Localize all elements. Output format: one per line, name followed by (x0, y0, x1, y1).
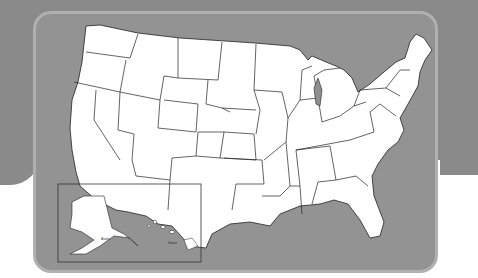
label-alaska: Alaska (101, 237, 110, 241)
contiguous-us (70, 25, 432, 248)
us-map (0, 0, 478, 278)
label-hawaii: Hawaii (168, 241, 177, 245)
